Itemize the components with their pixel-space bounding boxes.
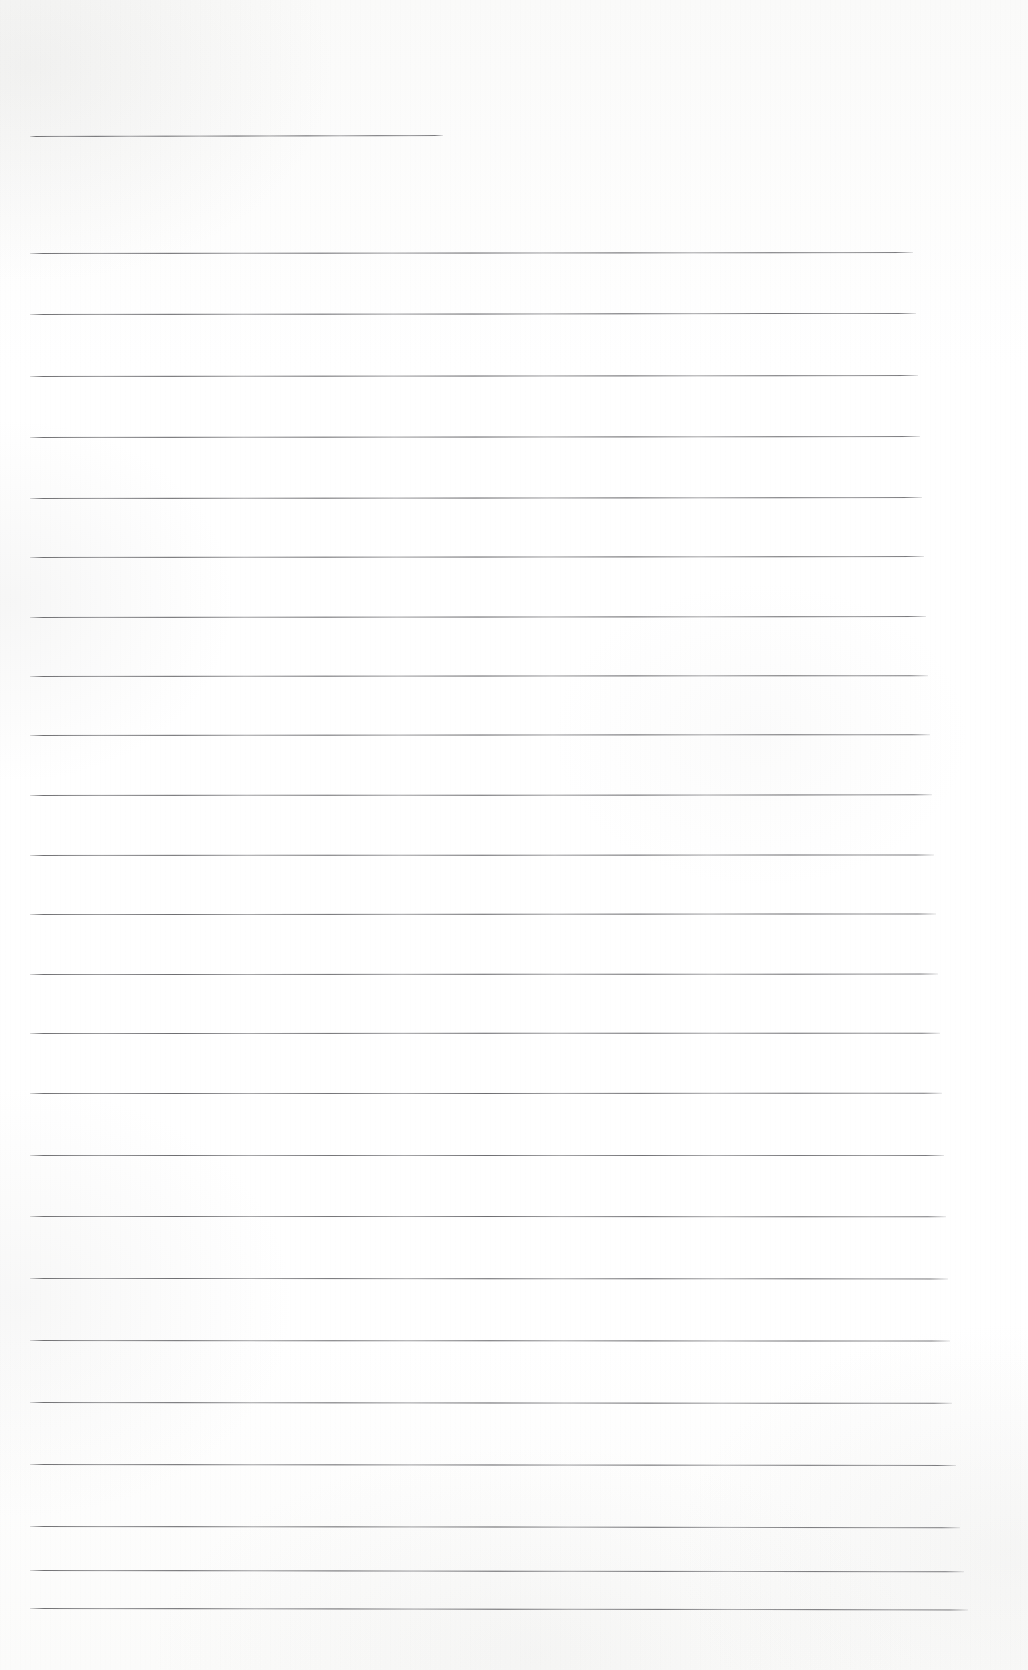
scanned-page xyxy=(0,0,1028,1670)
ruling-line-short xyxy=(30,134,443,138)
page-body-text xyxy=(30,150,968,1590)
ruling-line-ink xyxy=(30,1607,968,1611)
ruling-line xyxy=(30,1607,968,1611)
ruling-line-ink xyxy=(30,134,443,138)
